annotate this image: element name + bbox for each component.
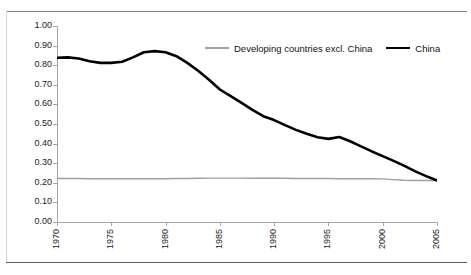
y-tick-label: 0.50 [18, 119, 52, 128]
x-tick-label: 1975 [106, 229, 115, 249]
x-tick-label: 1980 [161, 229, 170, 249]
x-tick-mark [437, 222, 438, 226]
x-tick-mark [274, 222, 275, 226]
x-tick-mark [383, 222, 384, 226]
y-tick-label: 0.40 [18, 139, 52, 148]
y-tick-label: 0.90 [18, 41, 52, 50]
x-tick-label: 2000 [378, 229, 387, 249]
x-axis-line [57, 222, 438, 223]
y-tick-label: 0.70 [18, 80, 52, 89]
x-tick-label: 1970 [52, 229, 61, 249]
y-tick-label: 0.60 [18, 99, 52, 108]
x-tick-label: 1985 [215, 229, 224, 249]
x-tick-mark [111, 222, 112, 226]
series-line-china [57, 51, 437, 180]
figure-bottom-rule [6, 262, 467, 263]
x-tick-mark [328, 222, 329, 226]
x-tick-mark [220, 222, 221, 226]
figure-top-rule [6, 11, 467, 12]
chart-figure: Developing countries excl. China China 0… [0, 0, 471, 275]
x-tick-mark [57, 222, 58, 226]
y-tick-label: 0.80 [18, 60, 52, 69]
y-tick-label: 0.30 [18, 158, 52, 167]
y-tick-label: 0.00 [18, 217, 52, 226]
y-axis-labels: 0.000.100.200.300.400.500.600.700.800.90… [14, 0, 52, 275]
y-tick-label: 0.20 [18, 178, 52, 187]
y-tick-label: 0.10 [18, 197, 52, 206]
x-tick-mark [166, 222, 167, 226]
x-tick-label: 1990 [269, 229, 278, 249]
x-tick-label: 2005 [432, 229, 441, 249]
series-line-developing-countries [57, 178, 437, 180]
figure-left-rule [6, 11, 7, 262]
plot-area [57, 26, 437, 222]
y-tick-label: 1.00 [18, 21, 52, 30]
x-tick-label: 1995 [323, 229, 332, 249]
